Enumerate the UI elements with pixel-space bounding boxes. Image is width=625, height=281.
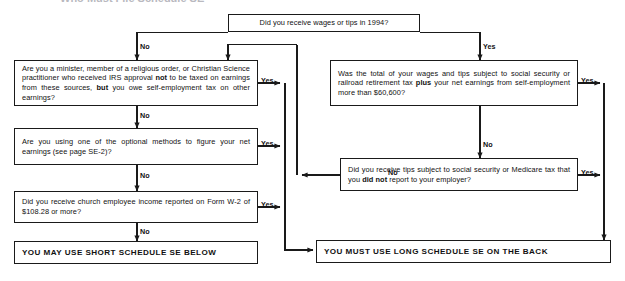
edge-label-tips-no: No xyxy=(388,168,398,177)
node-result-long-schedule[interactable]: YOU MUST USE LONG SCHEDULE SE ON THE BAC… xyxy=(316,240,611,263)
edge-label-wages-no: No xyxy=(140,42,150,51)
node-optional-methods-question[interactable]: Are you using one of the optional method… xyxy=(14,128,258,165)
flowchart-canvas: Who Must File Schedule SE xyxy=(0,0,625,281)
edge-label-church-yes: Yes xyxy=(261,200,274,209)
edge-label-optional-no: No xyxy=(140,171,150,180)
node-total-wages-question[interactable]: Was the total of your wages and tips sub… xyxy=(330,60,578,106)
clipped-title-text: Who Must File Schedule SE xyxy=(60,0,204,4)
edge-label-total-no: No xyxy=(483,140,493,149)
node-wages-question-text: Did you receive wages or tips in 1994? xyxy=(229,18,419,28)
node-unreported-tips-question-text: Did you receive tips subject to social s… xyxy=(341,165,577,184)
node-result-long-schedule-text: YOU MUST USE LONG SCHEDULE SE ON THE BAC… xyxy=(317,247,610,257)
edge-left-collector xyxy=(285,83,313,250)
edge-label-minister-no: No xyxy=(140,111,150,120)
node-wages-question[interactable]: Did you receive wages or tips in 1994? xyxy=(228,14,420,32)
edge-wages-yes xyxy=(420,33,480,61)
node-church-income-question-text: Did you receive church employee income r… xyxy=(15,197,257,216)
edge-loopback-in xyxy=(228,45,297,61)
clipped-title: Who Must File Schedule SE xyxy=(0,0,625,7)
node-church-income-question[interactable]: Did you receive church employee income r… xyxy=(14,191,258,223)
node-minister-question[interactable]: Are you a minister, member of a religiou… xyxy=(14,60,258,106)
edge-wages-no xyxy=(137,33,228,61)
node-optional-methods-question-text: Are you using one of the optional method… xyxy=(15,137,257,156)
node-total-wages-question-text: Was the total of your wages and tips sub… xyxy=(331,69,577,98)
edge-label-optional-yes: Yes xyxy=(261,139,274,148)
node-minister-question-text: Are you a minister, member of a religiou… xyxy=(15,64,257,102)
edge-label-minister-yes: Yes xyxy=(261,76,274,85)
node-result-short-schedule[interactable]: YOU MAY USE SHORT SCHEDULE SE BELOW xyxy=(14,241,258,264)
edge-label-tips-yes: Yes xyxy=(581,168,594,177)
node-unreported-tips-question[interactable]: Did you receive tips subject to social s… xyxy=(340,158,578,191)
edge-label-church-no: No xyxy=(140,227,150,236)
edge-label-total-yes: Yes xyxy=(581,76,594,85)
node-result-short-schedule-text: YOU MAY USE SHORT SCHEDULE SE BELOW xyxy=(15,248,257,258)
edge-label-wages-yes: Yes xyxy=(483,42,496,51)
